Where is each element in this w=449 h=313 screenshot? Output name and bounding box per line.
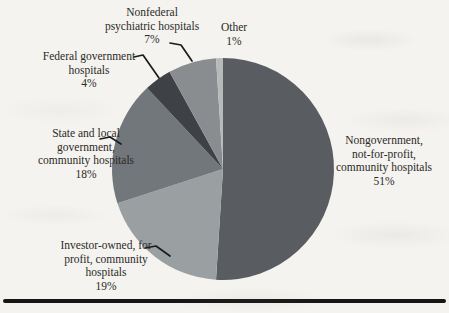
- label-line: not-for-profit,: [336, 148, 432, 162]
- label-line: 1%: [221, 35, 247, 49]
- label-line: 7%: [105, 33, 199, 47]
- label-line: Nonfederal: [105, 6, 199, 20]
- label-line: Investor-owned, for: [60, 239, 151, 253]
- pie-slice-nongovernment-not-for-profit-community-hospitals: [216, 58, 334, 280]
- label-line: profit, community: [60, 253, 151, 267]
- label-line: Federal government: [43, 50, 135, 64]
- label-line: psychiatric hospitals: [105, 20, 199, 34]
- label-nongovernment-hospitals: Nongovernment, not-for-profit, community…: [336, 134, 432, 188]
- label-line: hospitals: [43, 64, 135, 78]
- label-line: 51%: [336, 175, 432, 189]
- label-line: 18%: [38, 168, 134, 182]
- label-federal-government-hospitals: Federal government hospitals 4%: [43, 50, 135, 91]
- label-line: State and local: [38, 127, 134, 141]
- label-line: community hospitals: [38, 154, 134, 168]
- leader-line-federal-government: [134, 55, 159, 78]
- label-line: Other: [221, 21, 247, 35]
- label-state-local-government-hospitals: State and local government, community ho…: [38, 127, 134, 181]
- label-nonfederal-psychiatric-hospitals: Nonfederal psychiatric hospitals 7%: [105, 6, 199, 47]
- label-line: Nongovernment,: [336, 134, 432, 148]
- label-line: 19%: [60, 280, 151, 294]
- figure-bottom-rule: [3, 299, 446, 303]
- label-line: 4%: [43, 77, 135, 91]
- label-line: government,: [38, 141, 134, 155]
- label-investor-owned-hospitals: Investor-owned, for profit, community ho…: [60, 239, 151, 293]
- label-line: hospitals: [60, 266, 151, 280]
- scanned-figure-page: Nonfederal psychiatric hospitals 7% Othe…: [0, 0, 449, 313]
- label-line: community hospitals: [336, 161, 432, 175]
- label-other: Other 1%: [221, 21, 247, 48]
